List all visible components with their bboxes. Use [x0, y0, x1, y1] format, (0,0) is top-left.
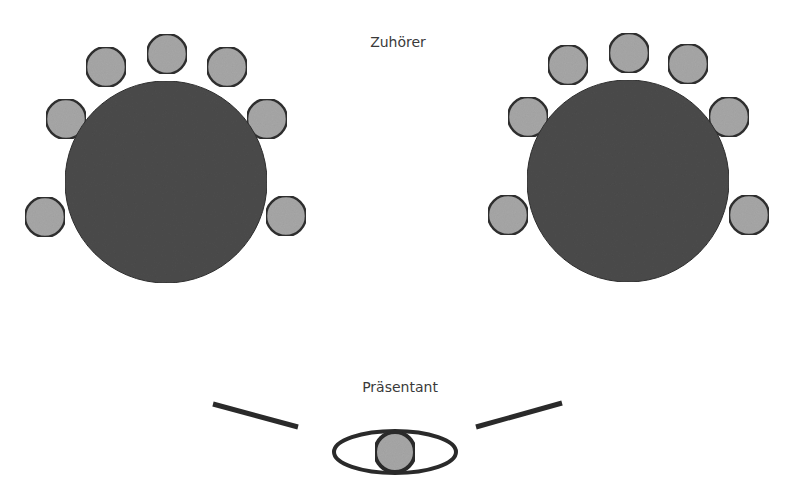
seating-diagram: Zuhörer Präsentant	[0, 0, 787, 494]
round-table	[527, 80, 729, 282]
chair	[668, 44, 708, 84]
chair	[609, 33, 649, 73]
chair	[729, 195, 769, 235]
chair	[548, 45, 588, 85]
chair	[266, 196, 306, 236]
presenter-eye-icon	[213, 403, 562, 473]
chair	[488, 195, 528, 235]
audience-label: Zuhörer	[370, 34, 426, 50]
chair	[147, 34, 187, 74]
sight-line-left	[213, 404, 298, 427]
sight-line-right	[476, 403, 562, 427]
eye-pupil	[375, 432, 415, 472]
chair	[86, 47, 126, 87]
presenter-label: Präsentant	[362, 379, 438, 395]
right-table	[488, 33, 769, 282]
round-table	[65, 81, 267, 283]
chair	[207, 47, 247, 87]
left-table	[25, 34, 306, 283]
audience-tables	[25, 33, 769, 283]
chair	[25, 197, 65, 237]
